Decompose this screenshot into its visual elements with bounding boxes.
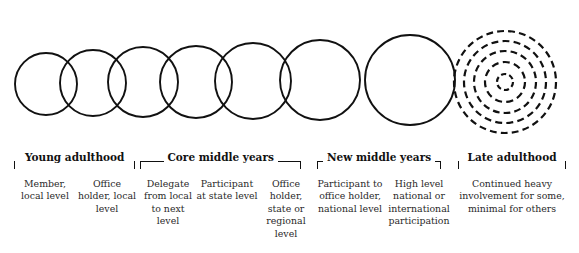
circle-late-adulthood-ring-4 — [485, 62, 525, 102]
column-delegate-local-to-next: Delegate from local to next level — [140, 178, 196, 228]
labels-region: Young adulthoodCore middle yearsNew midd… — [0, 150, 579, 253]
circle-participant-state — [160, 46, 232, 118]
column-participant-national: Participant to office holder, national l… — [317, 178, 383, 215]
circle-participant-national — [280, 40, 360, 120]
bracket-tick-right — [440, 161, 441, 169]
column-office-holder-local: Office holder, local level — [76, 178, 138, 215]
bracket-rule-right — [435, 161, 441, 162]
circle-late-adulthood-ring-2 — [464, 41, 546, 123]
column-office-holder-state: Office holder, state or regional level — [258, 178, 314, 240]
bracket-title: Core middle years — [168, 150, 274, 165]
circle-delegate-local-to-next — [108, 47, 178, 117]
bracket-young-adulthood: Young adulthood — [14, 150, 135, 174]
circle-high-level-national — [365, 35, 455, 125]
life-stage-diagram: Young adulthoodCore middle yearsNew midd… — [0, 0, 579, 253]
column-member-local: Member, local level — [14, 178, 76, 203]
circle-late-adulthood-ring-5 — [497, 74, 513, 90]
bracket-tick-right — [300, 161, 301, 169]
bracket-late-adulthood: Late adulthood — [458, 150, 566, 174]
bracket-row: Young adulthoodCore middle yearsNew midd… — [0, 150, 579, 176]
column-continued-involvement: Continued heavy involvement for some, mi… — [458, 178, 566, 215]
circle-late-adulthood-ring-1 — [454, 31, 556, 133]
circles-svg — [0, 0, 579, 150]
bracket-rule-right — [278, 161, 302, 162]
bracket-tick-left — [458, 161, 459, 169]
bracket-rule-left — [140, 161, 164, 162]
bracket-rule-left — [317, 161, 323, 162]
bracket-title: Late adulthood — [468, 150, 557, 165]
circle-late-adulthood-ring-3 — [474, 51, 536, 113]
bracket-title: New middle years — [327, 150, 431, 165]
bracket-tick-right — [134, 161, 135, 169]
bracket-new-middle-years: New middle years — [317, 150, 441, 174]
bracket-tick-left — [317, 161, 318, 169]
circles-stage — [0, 0, 579, 150]
column-participant-at-state: Participant at state level — [196, 178, 258, 203]
bracket-tick-left — [14, 161, 15, 169]
bracket-core-middle-years: Core middle years — [140, 150, 301, 174]
bracket-tick-right — [565, 161, 566, 169]
bracket-tick-left — [140, 161, 141, 169]
bracket-title: Young adulthood — [25, 150, 124, 165]
column-high-level-national: High level national or international par… — [383, 178, 455, 228]
